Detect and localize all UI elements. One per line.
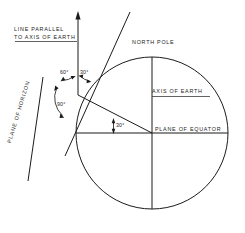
label-line-parallel-row1: LINE PARALLEL xyxy=(14,26,76,34)
plane-of-horizon-line xyxy=(28,77,43,181)
earth-axis-diagram: LINE PARALLEL TO AXIS OF EARTH NORTH POL… xyxy=(0,0,245,233)
angle-label-30-top: 30° xyxy=(80,69,88,75)
angle-arc-90-arrowhead-bottom xyxy=(60,114,65,118)
angle-arc-30-top-arrowhead-left xyxy=(78,75,83,79)
angle-label-30-equator: 30° xyxy=(116,122,124,128)
angle-arc-30-top-arrowhead-right xyxy=(87,79,92,83)
observer-to-center-line xyxy=(78,95,152,133)
label-north-pole: NORTH POLE xyxy=(132,39,174,47)
angle-label-60: 60° xyxy=(60,69,68,75)
label-plane-of-equator: PLANE OF EQUATOR xyxy=(155,126,221,134)
line-parallel-arrowhead xyxy=(75,11,80,20)
angle-label-90: 90° xyxy=(57,101,65,107)
label-axis-of-earth: AXIS OF EARTH xyxy=(152,88,203,96)
label-line-parallel-row2: TO AXIS OF EARTH xyxy=(14,34,76,42)
label-line-parallel-to-axis: LINE PARALLEL TO AXIS OF EARTH xyxy=(14,26,76,41)
angle-arc-90-arrowhead-top xyxy=(54,86,58,91)
angle-30-equator-arrowhead-top xyxy=(112,118,116,123)
